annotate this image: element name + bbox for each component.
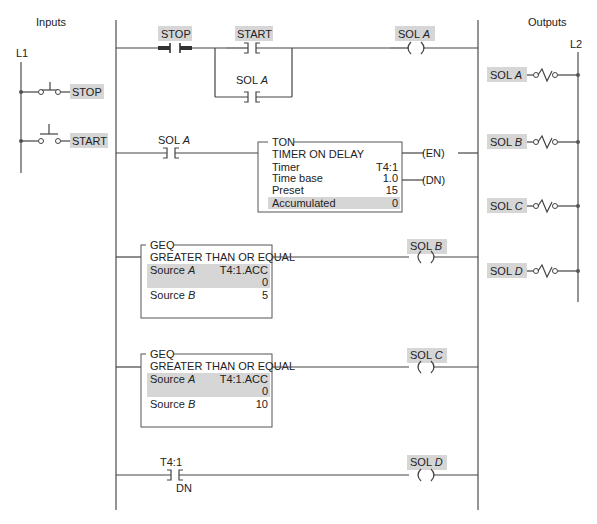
ton-dn-output: (DN) <box>422 174 445 186</box>
ton-en-output: (EN) <box>422 147 445 159</box>
solenoid-b-icon <box>527 136 580 148</box>
l2-label: L2 <box>570 38 582 50</box>
sol-c-output-device: SOL C <box>487 198 580 213</box>
outputs-header: Outputs <box>528 16 567 28</box>
rung1-seal-label: SOL A <box>236 74 268 86</box>
seal-in-contact-icon <box>215 92 292 102</box>
t4-1-dn-contact-icon <box>116 470 409 480</box>
ton-accumulated-value: 0 <box>392 197 398 209</box>
l1-label: L1 <box>16 47 28 59</box>
ton-timebase-label: Time base <box>272 172 323 184</box>
geq2-source-a-current: 0 <box>262 385 268 397</box>
geq1-tag: GEQ <box>150 239 175 251</box>
rung4-coil-label: SOL C <box>410 349 443 361</box>
start-pushbutton-input: START <box>19 124 108 148</box>
geq2-source-b-value: 10 <box>256 398 268 410</box>
start-input-label: START <box>72 135 107 147</box>
rung5-contact-bit: DN <box>176 482 192 494</box>
geq2-source-a-value: T4:1.ACC <box>220 373 268 385</box>
output-sol-a-label: SOL A <box>490 69 522 81</box>
geq1-source-b-value: 5 <box>262 289 268 301</box>
ton-timebase-value: 1.0 <box>383 172 398 184</box>
output-sol-b-label: SOL B <box>490 136 522 148</box>
geq1-source-a-value: T4:1.ACC <box>220 264 268 276</box>
rung1-start-label: START <box>237 28 272 40</box>
solenoid-a-icon <box>527 69 580 81</box>
ton-preset-value: 15 <box>386 184 398 196</box>
start-contact-icon <box>226 43 292 53</box>
rung-4: GEQ GREATER THAN OR EQUAL Source A T4:1.… <box>116 348 478 427</box>
geq2-tag: GEQ <box>150 348 175 360</box>
ton-title: TIMER ON DELAY <box>272 148 365 160</box>
sol-a-coil-icon <box>390 42 478 54</box>
stop-pushbutton-input: STOP <box>19 82 104 99</box>
sol-d-coil-icon <box>418 469 478 481</box>
geq2-title: GREATER THAN OR EQUAL <box>150 360 295 372</box>
output-sol-c-label: SOL C <box>490 200 523 212</box>
rung3-coil-label: SOL B <box>410 240 442 252</box>
ton-tag: TON <box>272 136 295 148</box>
solenoid-c-icon <box>527 200 580 212</box>
ton-accumulated-label: Accumulated <box>272 197 336 209</box>
solenoid-d-icon <box>527 265 580 277</box>
geq2-source-b-label: Source B <box>150 398 195 410</box>
rung2-contact-label: SOL A <box>158 134 190 146</box>
rung-1: STOP START SOL A SOL A <box>116 26 478 102</box>
sol-a-contact-icon <box>116 148 258 158</box>
ton-instruction-block: TON TIMER ON DELAY Timer T4:1 Time base … <box>258 136 402 212</box>
sol-b-output-device: SOL B <box>487 134 580 149</box>
inputs-header: Inputs <box>36 16 66 28</box>
geq1-source-a-label: Source A <box>150 264 195 276</box>
rung5-coil-label: SOL D <box>410 456 443 468</box>
geq1-source-b-label: Source B <box>150 289 195 301</box>
rung1-coil-label: SOL A <box>398 28 430 40</box>
rung-3: GEQ GREATER THAN OR EQUAL Source A T4:1.… <box>116 239 478 318</box>
rung-5: T4:1 DN SOL D <box>116 455 478 494</box>
rung-2: SOL A TON TIMER ON DELAY Timer T4:1 Time… <box>116 134 478 212</box>
output-sol-d-label: SOL D <box>490 265 523 277</box>
ton-preset-label: Preset <box>272 184 304 196</box>
geq-instruction-block-2: GEQ GREATER THAN OR EQUAL Source A T4:1.… <box>141 348 295 427</box>
ladder-diagram: Inputs L1 STOP START STOP <box>0 0 597 524</box>
stop-contact-icon <box>158 43 192 53</box>
sol-d-output-device: SOL D <box>487 263 580 278</box>
geq-instruction-block-1: GEQ GREATER THAN OR EQUAL Source A T4:1.… <box>141 239 295 318</box>
geq2-source-a-label: Source A <box>150 373 195 385</box>
geq1-source-a-current: 0 <box>262 276 268 288</box>
stop-input-label: STOP <box>72 86 102 98</box>
sol-a-output-device: SOL A <box>487 67 580 82</box>
rung1-stop-label: STOP <box>161 28 191 40</box>
rung5-contact-address: T4:1 <box>160 456 182 468</box>
